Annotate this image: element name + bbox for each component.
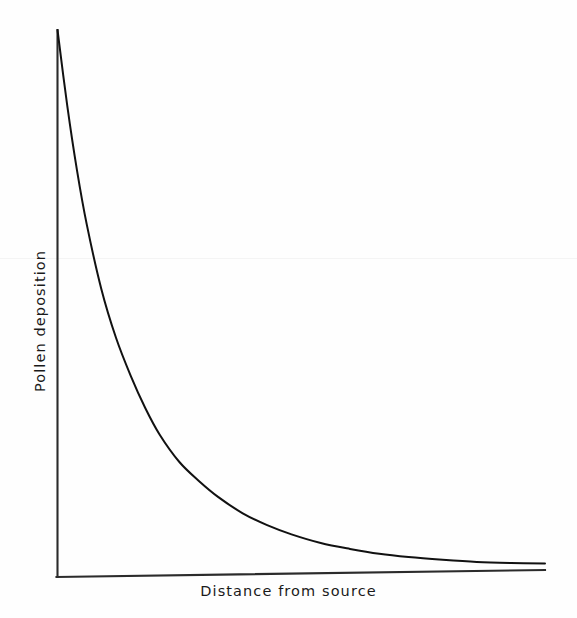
axes-group [57, 30, 546, 577]
plot-area [0, 0, 577, 618]
y-axis-label-wrapper: Pollen deposition [0, 0, 80, 618]
y-axis-label: Pollen deposition [32, 211, 48, 431]
x-axis-label: Distance from source [0, 583, 577, 599]
decay-curve [58, 30, 546, 564]
x-axis-line [57, 570, 546, 577]
pollen-deposition-figure: Distance from source Pollen deposition [0, 0, 577, 618]
